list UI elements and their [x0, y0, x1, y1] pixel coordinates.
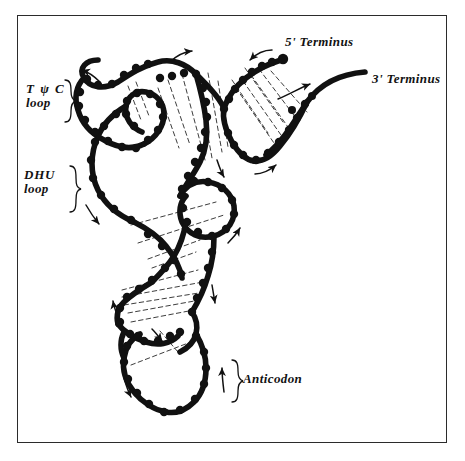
brace-tpsic — [65, 80, 76, 122]
label-tpsic-loop: T ψ C loop — [26, 82, 65, 109]
base-pair-lines — [122, 68, 307, 365]
five-prime-end-bead — [278, 54, 288, 64]
direction-arrows — [82, 50, 310, 397]
arrow-acceptor-bottom — [255, 165, 276, 174]
arrow-5prime-in — [250, 50, 272, 60]
label-dhu-line2: loop — [24, 182, 55, 196]
arrow-mid-descend — [217, 160, 224, 177]
nucleotide-beads — [75, 54, 316, 416]
label-anticodon: Anticodon — [243, 372, 302, 386]
trna-structure-figure: 5' Terminus 3' Terminus Anticodon T ψ C … — [0, 0, 465, 461]
arrow-anticodon-right-up — [222, 368, 224, 392]
label-tpsic-line1: T ψ C — [26, 82, 65, 96]
label-tpsic-line2: loop — [26, 96, 65, 110]
brace-anticodon — [232, 360, 243, 402]
label-five-prime-terminus: 5' Terminus — [285, 35, 354, 49]
arrow-anticodon-stem-down — [212, 285, 215, 303]
arrow-dhu-down — [86, 205, 99, 224]
label-three-prime-terminus: 3' Terminus — [372, 72, 441, 86]
tpsic-inner-crossover — [126, 92, 164, 144]
label-dhu-loop: DHU loop — [24, 168, 55, 195]
trna-diagram-canvas — [0, 0, 465, 461]
label-dhu-line1: DHU — [24, 168, 55, 182]
brace-dhu — [70, 166, 81, 212]
